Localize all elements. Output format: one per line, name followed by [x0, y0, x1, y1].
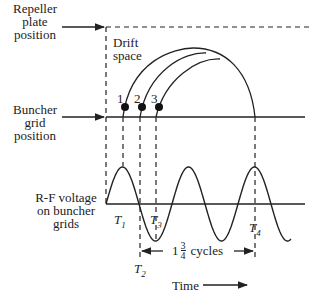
cycles-label: 1 3 4 cycles [172, 241, 223, 260]
t1-subscript: 1 [121, 220, 126, 230]
t1-label: T1 [114, 213, 126, 232]
rf-voltage-label: R-F voltage on buncher grids [30, 191, 102, 230]
rf-label-line: grids [30, 217, 102, 230]
time-label: Time [172, 279, 199, 292]
electron-trajectory-2 [140, 53, 206, 117]
drift-label-line: space [113, 49, 153, 62]
repeller-label: Repeller plate position [10, 2, 60, 41]
cycles-word: cycles [191, 244, 223, 257]
t2-label: T2 [134, 262, 146, 281]
buncher-label: Buncher grid position [10, 103, 60, 142]
buncher-label-line: position [10, 129, 60, 142]
t4-subscript: 4 [256, 228, 261, 238]
t2-subscript: 2 [141, 269, 146, 279]
electron-label-1: 1 [117, 92, 124, 105]
electron-label-2: 2 [134, 92, 141, 105]
t3-label: T3 [150, 213, 162, 232]
t3-subscript: 3 [157, 220, 162, 230]
cycles-whole: 1 [172, 244, 179, 257]
klystron-diagram [0, 0, 321, 303]
cycles-denominator: 4 [181, 251, 186, 260]
electron-label-3: 3 [151, 92, 158, 105]
repeller-label-line: position [10, 28, 60, 41]
drift-space-label: Drift space [113, 36, 153, 62]
electron-trajectory-3 [156, 59, 220, 117]
t4-label: T4 [249, 221, 261, 240]
